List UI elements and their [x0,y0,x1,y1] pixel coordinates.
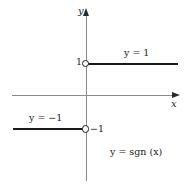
sgn-function-figure: y x 1 −1 y = 1 y = −1 y = sgn (x) [0,0,195,185]
x-axis-arrowhead-icon [172,92,180,98]
upper-branch-annotation: y = 1 [124,48,149,58]
y-axis-label: y [78,6,84,16]
y-axis-line [86,14,87,181]
open-endpoint-marker-upper [82,60,89,67]
function-annotation: y = sgn (x) [110,147,162,157]
x-axis-line [12,95,176,96]
curve-branch-negative [13,128,86,130]
x-axis-label: x [171,99,177,109]
open-endpoint-marker-lower [82,125,89,132]
curve-branch-positive [87,63,178,65]
lower-branch-annotation: y = −1 [29,113,62,123]
y-tick-label-negative-one: −1 [90,124,104,134]
